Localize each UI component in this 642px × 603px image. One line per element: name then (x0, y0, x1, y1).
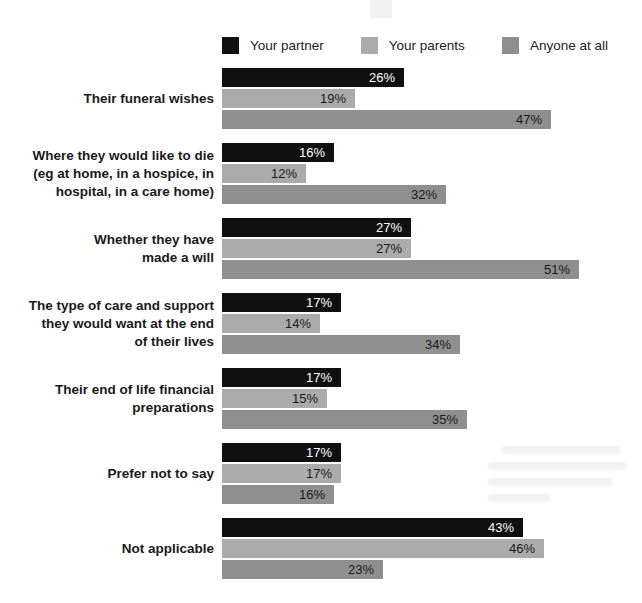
bar-value-label: 12% (271, 164, 297, 183)
bar-anyone-at-all: 34% (222, 335, 460, 354)
bar-value-label: 14% (285, 314, 311, 333)
bar-stack: 26%19%47% (222, 68, 551, 129)
legend-item-your-parents: Your parents (361, 37, 465, 54)
bar-stack: 17%17%16% (222, 443, 341, 504)
legend-swatch-your-parents (361, 37, 378, 54)
legend-label: Your partner (250, 38, 324, 53)
bar-your-partner: 43% (222, 518, 523, 537)
category-label: Where they would like to die(eg at home,… (0, 147, 222, 201)
bar-your-partner: 26% (222, 68, 404, 87)
bar-value-label: 27% (376, 239, 402, 258)
bar-your-partner: 27% (222, 218, 411, 237)
scan-artifact-line (502, 446, 620, 454)
bar-value-label: 17% (306, 368, 332, 387)
bar-stack: 17%14%34% (222, 293, 460, 354)
bar-group-not-applicable: Not applicable43%46%23% (0, 518, 642, 579)
bar-your-partner: 17% (222, 443, 341, 462)
bar-anyone-at-all: 16% (222, 485, 334, 504)
bar-value-label: 16% (299, 485, 325, 504)
bar-your-parents: 12% (222, 164, 306, 183)
bar-your-partner: 17% (222, 368, 341, 387)
bar-anyone-at-all: 32% (222, 185, 446, 204)
category-label: Their end of life financialpreparations (0, 381, 222, 417)
bar-stack: 43%46%23% (222, 518, 544, 579)
bar-your-parents: 17% (222, 464, 341, 483)
bar-value-label: 27% (376, 218, 402, 237)
scan-artifact-strip (370, 0, 392, 18)
bar-value-label: 34% (425, 335, 451, 354)
legend-label: Your parents (389, 38, 465, 53)
bar-value-label: 17% (306, 293, 332, 312)
bar-group-their-funeral-wishes: Their funeral wishes26%19%47% (0, 68, 642, 129)
bar-value-label: 26% (369, 68, 395, 87)
legend-swatch-your-partner (222, 37, 239, 54)
bar-anyone-at-all: 35% (222, 410, 467, 429)
chart-legend: Your partnerYour parentsAnyone at all (222, 36, 608, 54)
bar-anyone-at-all: 47% (222, 110, 551, 129)
legend-item-anyone-at-all: Anyone at all (502, 37, 608, 54)
category-label: Not applicable (0, 540, 222, 558)
scan-artifact-ghost-text (488, 446, 628, 510)
bar-value-label: 32% (411, 185, 437, 204)
bar-value-label: 46% (509, 539, 535, 558)
bar-your-partner: 17% (222, 293, 341, 312)
bar-anyone-at-all: 51% (222, 260, 579, 279)
scan-artifact-line (488, 462, 626, 470)
bar-your-partner: 16% (222, 143, 334, 162)
legend-item-your-partner: Your partner (222, 37, 324, 54)
category-label: Whether they havemade a will (0, 231, 222, 267)
bar-value-label: 35% (432, 410, 458, 429)
bar-your-parents: 46% (222, 539, 544, 558)
bar-value-label: 19% (320, 89, 346, 108)
bar-your-parents: 14% (222, 314, 320, 333)
bar-group-the-type-of-care-and-support-they-would-: The type of care and supportthey would w… (0, 293, 642, 354)
chart-canvas: Your partnerYour parentsAnyone at all Th… (0, 0, 642, 603)
legend-label: Anyone at all (530, 38, 608, 53)
bar-your-parents: 19% (222, 89, 355, 108)
bar-anyone-at-all: 23% (222, 560, 383, 579)
bar-group-whether-they-have-made-a-will: Whether they havemade a will27%27%51% (0, 218, 642, 279)
bar-value-label: 43% (488, 518, 514, 537)
scan-artifact-line (488, 494, 550, 502)
legend-swatch-anyone-at-all (502, 37, 519, 54)
bar-stack: 16%12%32% (222, 143, 446, 204)
bar-stack: 17%15%35% (222, 368, 467, 429)
bar-value-label: 17% (306, 443, 332, 462)
bar-value-label: 17% (306, 464, 332, 483)
bar-value-label: 15% (292, 389, 318, 408)
bar-your-parents: 15% (222, 389, 327, 408)
bar-value-label: 51% (544, 260, 570, 279)
bar-your-parents: 27% (222, 239, 411, 258)
bar-group-where-they-would-like-to-die-eg-at-home-: Where they would like to die(eg at home,… (0, 143, 642, 204)
bar-value-label: 47% (516, 110, 542, 129)
category-label: The type of care and supportthey would w… (0, 297, 222, 351)
category-label: Prefer not to say (0, 465, 222, 483)
bar-value-label: 16% (299, 143, 325, 162)
scan-artifact-line (488, 478, 612, 486)
bar-value-label: 23% (348, 560, 374, 579)
category-label: Their funeral wishes (0, 90, 222, 108)
bar-group-their-end-of-life-financial-preparations: Their end of life financialpreparations1… (0, 368, 642, 429)
bar-stack: 27%27%51% (222, 218, 579, 279)
